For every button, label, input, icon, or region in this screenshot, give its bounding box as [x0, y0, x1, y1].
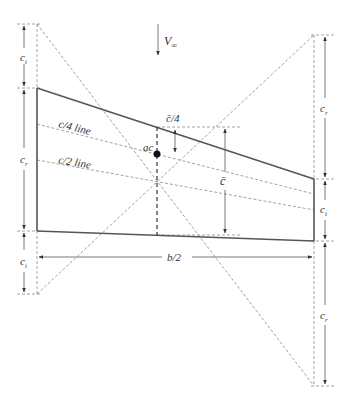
- freestream-label: V∞: [164, 34, 177, 50]
- aerodynamic-center-label: ac: [143, 141, 154, 153]
- tip-chord-label: ct: [20, 255, 28, 270]
- root-chord-label: cr: [320, 309, 328, 324]
- semispan-label: b/2: [167, 251, 182, 263]
- trailing-edge: [37, 231, 314, 241]
- half-chord-line-label: c/2 line: [58, 153, 92, 171]
- root-chord-label: cr: [20, 153, 28, 168]
- construction-diagonals: [37, 24, 314, 386]
- labels: V∞ ct cr ct cr ct cr c/4 line c/2 line c…: [20, 34, 328, 324]
- mac-quarter-label: c̄/4: [166, 112, 180, 124]
- diagonal-line-down: [37, 24, 314, 386]
- mac-label: c̄: [220, 174, 226, 188]
- root-chord-label: cr: [320, 102, 328, 117]
- aerodynamic-center-point: [154, 151, 161, 158]
- tip-chord-label: ct: [20, 51, 28, 66]
- wing-planform-diagram: V∞ ct cr ct cr ct cr c/4 line c/2 line c…: [0, 0, 350, 407]
- quarter-chord-line-label: c/4 line: [58, 117, 93, 137]
- tip-chord-label: ct: [320, 203, 328, 218]
